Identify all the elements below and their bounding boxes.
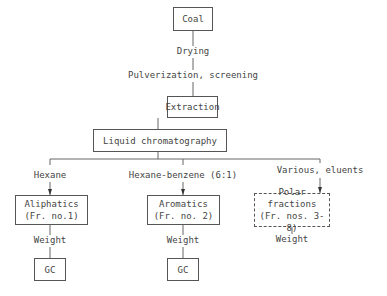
node-sublabel: (Fr. no.1) — [24, 210, 78, 222]
edge-label-hexane: Hexane — [34, 170, 67, 180]
node-aromatics: Aromatics (Fr. no. 2) — [147, 195, 220, 225]
node-label: Extraction — [165, 101, 219, 113]
node-label: GC — [178, 264, 189, 276]
edge-label-pulverization: Pulverization, screening — [128, 70, 258, 80]
node-sublabel: (Fr. no. 2) — [154, 210, 214, 222]
edge-label-weight-3: Weight — [276, 234, 309, 244]
edge-label-hexane-benzene: Hexane-benzene (6:1) — [129, 170, 237, 180]
node-polar-fractions: Polar fractions (Fr. nos. 3-8) — [254, 193, 330, 227]
node-label: Liquid chromatography — [103, 135, 217, 147]
edge-label-drying: Drying — [177, 46, 210, 56]
node-label: Coal — [182, 13, 204, 25]
edge-label-various-eluents: Various, eluents — [277, 165, 364, 175]
node-aliphatics: Aliphatics (Fr. no.1) — [15, 195, 88, 225]
node-gc-1: GC — [34, 258, 66, 281]
node-label: GC — [45, 264, 56, 276]
node-extraction: Extraction — [167, 96, 218, 118]
node-liquid-chromatography: Liquid chromatography — [93, 129, 227, 152]
node-gc-2: GC — [167, 258, 199, 281]
node-label: Aromatics — [159, 198, 208, 210]
node-sublabel: (Fr. nos. 3-8) — [255, 210, 329, 234]
node-coal: Coal — [173, 7, 213, 31]
node-label: Polar fractions — [255, 186, 329, 210]
node-label: Aliphatics — [24, 198, 78, 210]
edge-label-weight-2: Weight — [167, 235, 200, 245]
edge-label-weight-1: Weight — [34, 235, 67, 245]
